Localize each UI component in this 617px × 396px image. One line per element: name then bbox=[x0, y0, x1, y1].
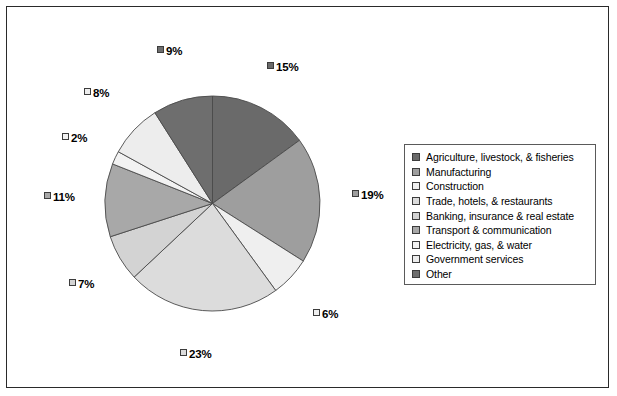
data-label-swatch-icon bbox=[62, 133, 69, 140]
legend-list: Agriculture, livestock, & fisheriesManuf… bbox=[412, 150, 589, 281]
legend-swatch-icon bbox=[412, 182, 420, 190]
data-label-value: 19% bbox=[361, 189, 383, 201]
legend-item-label: Electricity, gas, & water bbox=[426, 239, 532, 251]
data-label-value: 23% bbox=[189, 348, 211, 360]
legend-swatch-icon bbox=[412, 212, 420, 220]
legend-swatch-icon bbox=[412, 270, 420, 278]
data-label-value: 11% bbox=[53, 191, 75, 203]
legend-item[interactable]: Other bbox=[412, 267, 589, 282]
pie-data-label: 23% bbox=[180, 347, 211, 360]
legend-item-label: Construction bbox=[426, 180, 484, 192]
pie-slice-group bbox=[105, 96, 320, 311]
pie-data-label: 2% bbox=[62, 131, 87, 144]
legend-item[interactable]: Government services bbox=[412, 252, 589, 267]
legend-item[interactable]: Transport & communication bbox=[412, 223, 589, 238]
pie-data-label: 15% bbox=[267, 60, 298, 73]
legend-item[interactable]: Agriculture, livestock, & fisheries bbox=[412, 150, 589, 165]
data-label-value: 8% bbox=[93, 87, 109, 99]
legend-item-label: Banking, insurance & real estate bbox=[426, 210, 574, 222]
data-label-swatch-icon bbox=[69, 279, 76, 286]
pie-data-label: 7% bbox=[69, 277, 94, 290]
data-label-value: 2% bbox=[71, 132, 87, 144]
data-label-swatch-icon bbox=[352, 190, 359, 197]
data-label-swatch-icon bbox=[313, 309, 320, 316]
legend-item[interactable]: Trade, hotels, & restaurants bbox=[412, 194, 589, 209]
legend-item-label: Transport & communication bbox=[426, 224, 552, 236]
data-label-value: 6% bbox=[322, 308, 338, 320]
legend-swatch-icon bbox=[412, 255, 420, 263]
legend-item[interactable]: Manufacturing bbox=[412, 165, 589, 180]
data-label-value: 15% bbox=[276, 61, 298, 73]
legend-swatch-icon bbox=[412, 168, 420, 176]
pie-data-label: 9% bbox=[157, 44, 182, 57]
data-label-swatch-icon bbox=[44, 192, 51, 199]
data-label-swatch-icon bbox=[84, 88, 91, 95]
legend-item-label: Manufacturing bbox=[426, 166, 491, 178]
chart-legend: Agriculture, livestock, & fisheriesManuf… bbox=[404, 144, 596, 285]
legend-item-label: Other bbox=[426, 268, 452, 280]
legend-item-label: Trade, hotels, & restaurants bbox=[426, 195, 552, 207]
legend-swatch-icon bbox=[412, 153, 420, 161]
legend-swatch-icon bbox=[412, 241, 420, 249]
legend-item-label: Government services bbox=[426, 253, 523, 265]
pie-chart-figure: 15%19%6%23%7%11%2%8%9% Agriculture, live… bbox=[0, 0, 617, 396]
legend-item[interactable]: Electricity, gas, & water bbox=[412, 238, 589, 253]
pie-data-label: 6% bbox=[313, 307, 338, 320]
data-label-value: 9% bbox=[166, 45, 182, 57]
legend-item[interactable]: Banking, insurance & real estate bbox=[412, 208, 589, 223]
pie-data-label: 8% bbox=[84, 86, 109, 99]
data-label-swatch-icon bbox=[267, 62, 274, 69]
data-label-swatch-icon bbox=[157, 46, 164, 53]
pie-data-label: 11% bbox=[44, 190, 75, 203]
legend-swatch-icon bbox=[412, 226, 420, 234]
data-label-swatch-icon bbox=[180, 349, 187, 356]
legend-item[interactable]: Construction bbox=[412, 179, 589, 194]
data-label-value: 7% bbox=[78, 278, 94, 290]
pie-data-label: 19% bbox=[352, 188, 383, 201]
legend-item-label: Agriculture, livestock, & fisheries bbox=[426, 151, 574, 163]
legend-swatch-icon bbox=[412, 197, 420, 205]
